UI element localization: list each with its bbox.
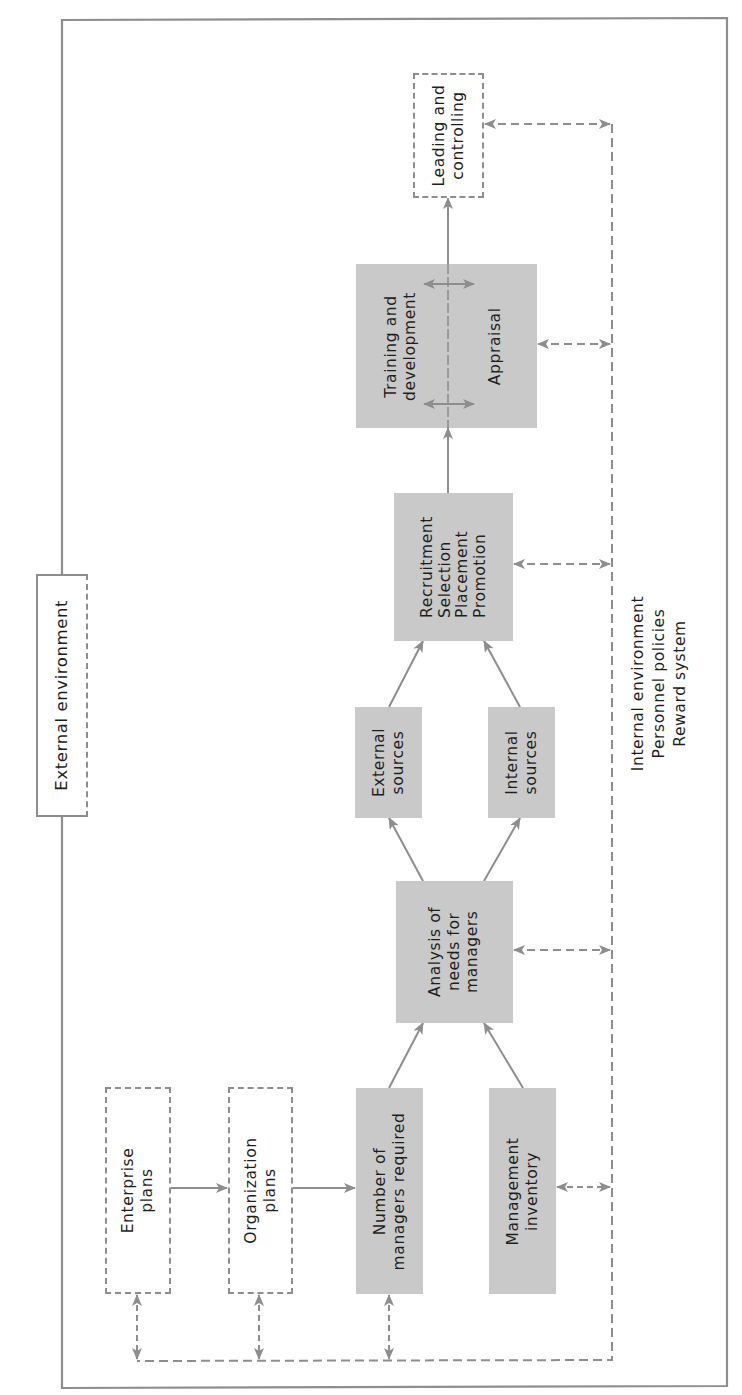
node-text-line: Analysis of: [427, 907, 446, 997]
node-text-line: Leading and: [430, 85, 449, 187]
internal-env-line: Personnel policies: [650, 595, 671, 770]
node-text-line: Promotion: [471, 516, 489, 618]
node-text-line: Organization: [242, 1137, 261, 1243]
node-leading-controlling: Leading and controlling: [413, 73, 484, 198]
arrow-external-sources-to-recruitment: [389, 641, 423, 707]
appraisal-label: Appraisal: [452, 264, 537, 428]
node-text-line: needs for: [445, 907, 464, 997]
node-text-line: managers: [464, 907, 483, 997]
node-text-line: sources: [389, 728, 408, 797]
node-text-line: plans: [261, 1137, 280, 1243]
internal-env-line: Reward system: [671, 595, 692, 770]
node-text-line: Appraisal: [485, 307, 504, 385]
node-analysis-of-needs: Analysis of needs for managers: [396, 881, 513, 1023]
node-text-line: controlling: [449, 85, 468, 187]
node-text-line: Placement: [453, 516, 471, 618]
node-internal-sources: Internal sources: [488, 707, 555, 818]
arrow-analysis-to-internal-sources: [484, 818, 520, 881]
node-text-line: development: [400, 292, 419, 401]
node-enterprise-plans: Enterprise plans: [105, 1087, 171, 1294]
node-text-line: managers required: [390, 1112, 409, 1270]
staffing-diagram: External environment Leading and control…: [0, 0, 742, 1395]
node-text-line: Internal: [503, 730, 522, 795]
arrow-number-to-analysis: [389, 1023, 423, 1088]
node-text-line: sources: [521, 730, 540, 795]
node-text-line: External: [370, 728, 389, 797]
node-text-line: Management: [504, 1137, 523, 1245]
node-external-sources: External sources: [355, 707, 422, 818]
node-text-line: Selection: [436, 516, 454, 618]
arrow-inventory-to-analysis: [484, 1023, 523, 1088]
node-text-line: plans: [138, 1148, 157, 1234]
external-environment-label: External environment: [36, 574, 88, 817]
node-recruitment: Recruitment Selection Placement Promotio…: [394, 493, 513, 641]
node-text-line: Training and: [382, 292, 401, 401]
node-organization-plans: Organization plans: [228, 1087, 293, 1294]
arrow-internal-sources-to-recruitment: [484, 641, 520, 707]
node-management-inventory: Management inventory: [489, 1088, 556, 1294]
internal-env-line: Internal environment: [629, 595, 650, 770]
node-text-line: inventory: [523, 1137, 542, 1245]
training-development-label: Training and development: [356, 264, 444, 428]
node-number-of-managers: Number of managers required: [356, 1088, 423, 1294]
internal-environment-label: Internal environment Personnel policies …: [622, 555, 698, 811]
node-text-line: Enterprise: [120, 1148, 139, 1234]
node-text-line: Number of: [371, 1112, 390, 1270]
node-text-line: Recruitment: [418, 516, 436, 618]
external-environment-text: External environment: [53, 600, 72, 791]
arrow-analysis-to-external-sources: [389, 818, 423, 881]
